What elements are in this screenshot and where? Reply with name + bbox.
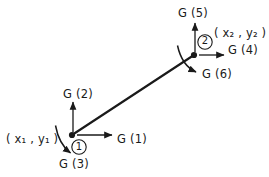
beam-element-dof-diagram: G (5) G (4) G (6) G (2) G (1) G (3) ( x₂… [0, 0, 269, 177]
dof-label-g1: G (1) [117, 134, 147, 146]
dof-label-g6: G (6) [202, 69, 232, 81]
dof-label-g2: G (2) [63, 89, 93, 101]
node-2-joint-dot [191, 52, 197, 58]
dof-label-g4: G (4) [228, 45, 258, 57]
node-2-coordinate-label: ( x₂ , y₂ ) [214, 28, 266, 40]
node-1-number-text: 1 [72, 142, 86, 152]
node-1-coordinate-label: ( x₁ , y₁ ) [6, 134, 58, 146]
dof-label-g3: G (3) [59, 159, 89, 171]
dof-label-g5: G (5) [178, 8, 208, 20]
node-1-joint-dot [69, 132, 75, 138]
node-2-number-text: 2 [198, 36, 212, 46]
